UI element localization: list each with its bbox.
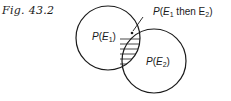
pointer-dot: [131, 32, 134, 35]
intersection-label: P(E1 then E2): [153, 6, 213, 18]
venn-diagram: P(E1) P(E2) P(E1 then E2): [0, 0, 231, 101]
set-e2-label: P(E2): [146, 56, 170, 68]
set-e1-label: P(E1): [92, 31, 116, 43]
